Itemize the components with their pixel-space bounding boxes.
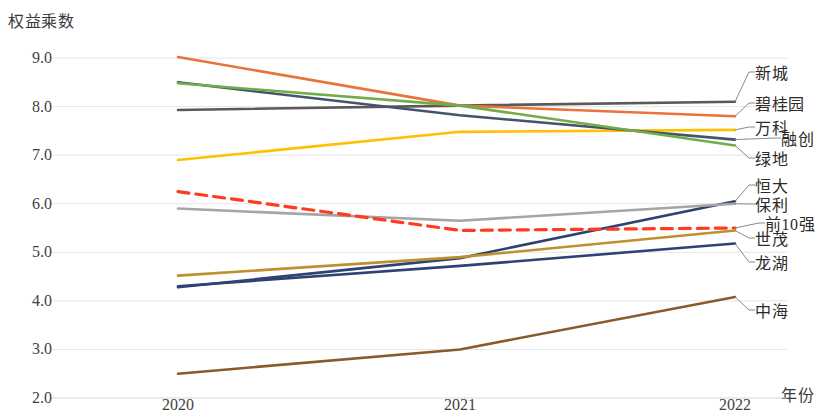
series-label-新城: 新城 bbox=[755, 60, 788, 84]
y-axis-tick-5.0: 5.0 bbox=[8, 243, 52, 261]
y-axis-tick-9.0: 9.0 bbox=[8, 49, 52, 67]
series-line-世茂 bbox=[178, 230, 735, 275]
leader-line-绿地 bbox=[735, 145, 755, 158]
series-line-恒大 bbox=[178, 201, 735, 287]
y-axis-tick-7.0: 7.0 bbox=[8, 146, 52, 164]
y-axis-tick-4.0: 4.0 bbox=[8, 292, 52, 310]
series-label-龙湖: 龙湖 bbox=[755, 250, 788, 274]
leader-line-万科 bbox=[735, 127, 755, 130]
plot-area: 新城碧桂园万科融创绿地恒大保利前10强世茂龙湖中海 bbox=[52, 40, 787, 408]
series-canvas bbox=[52, 40, 787, 408]
leader-line-新城 bbox=[735, 72, 755, 102]
series-line-中海 bbox=[178, 297, 735, 374]
series-label-中海: 中海 bbox=[755, 298, 788, 322]
series-line-龙湖 bbox=[178, 244, 735, 287]
y-axis-tick-labels: 9.08.07.06.05.04.03.02.0 bbox=[0, 0, 52, 413]
y-axis-tick-2.0: 2.0 bbox=[8, 389, 52, 407]
y-axis-tick-8.0: 8.0 bbox=[8, 98, 52, 116]
leader-line-恒大 bbox=[735, 185, 755, 201]
leader-line-世茂 bbox=[735, 230, 755, 238]
y-axis-tick-6.0: 6.0 bbox=[8, 195, 52, 213]
series-label-碧桂园: 碧桂园 bbox=[755, 91, 805, 115]
equity-multiplier-line-chart: 权益乘数 年份 9.08.07.06.05.04.03.02.0 2020202… bbox=[0, 0, 839, 413]
y-axis-tick-3.0: 3.0 bbox=[8, 340, 52, 358]
leader-line-碧桂园 bbox=[735, 103, 755, 116]
series-label-绿地: 绿地 bbox=[755, 146, 788, 170]
leader-line-中海 bbox=[735, 297, 755, 310]
series-label-世茂: 世茂 bbox=[755, 226, 788, 250]
